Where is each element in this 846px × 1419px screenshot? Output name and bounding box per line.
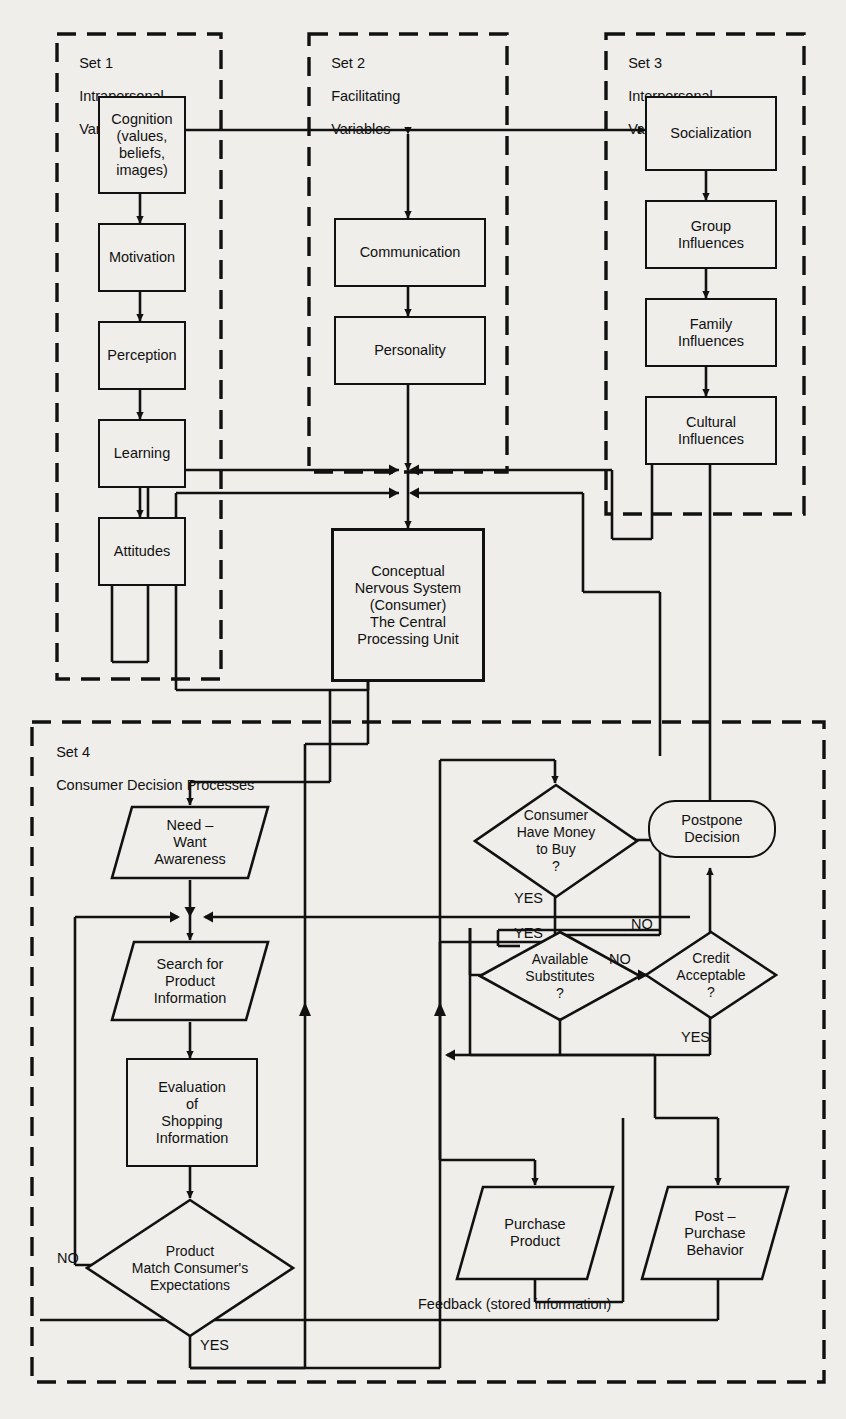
set-1-name-line2: Variables <box>79 121 138 137</box>
set-3-label: Set 3 Interpersonal Variables <box>612 38 713 154</box>
edge-label-credit-yes: YES <box>681 1029 710 1045</box>
edge-label-match-yes: YES <box>200 1337 229 1353</box>
diagram-canvas: Set 1 Intrapersonal Variables Set 2 Faci… <box>0 0 846 1419</box>
set-2-name-line1: Facilitating <box>331 88 400 104</box>
shape-available-substitutes[interactable]: AvailableSubstitutes? <box>478 930 642 1022</box>
shape-need-want-awareness[interactable]: Need –WantAwareness <box>110 805 270 880</box>
set-1-label: Set 1 Intrapersonal Variables <box>63 38 164 154</box>
edge-label-match-no: NO <box>57 1250 79 1266</box>
set-3-name-line2: Variables <box>628 121 687 137</box>
set-1-number: Set 1 <box>79 55 113 71</box>
edge-label-money-yes: YES <box>514 890 543 906</box>
shape-post-purchase-behavior[interactable]: Post –PurchaseBehavior <box>640 1185 790 1281</box>
shape-consumer-have-money[interactable]: ConsumerHave Moneyto Buy? <box>473 783 639 899</box>
shape-credit-acceptable[interactable]: CreditAcceptable? <box>644 930 778 1020</box>
shape-search-for-product-information[interactable]: Search forProductInformation <box>110 940 270 1022</box>
set-1-name-line1: Intrapersonal <box>79 88 164 104</box>
edge-label-money-no: NO <box>631 916 653 932</box>
set-4-number: Set 4 <box>56 744 90 760</box>
shape-product-match-expectations[interactable]: ProductMatch Consumer'sExpectations <box>85 1198 295 1338</box>
set-2-name-line2: Variables <box>331 121 390 137</box>
edge-label-substitutes-yes: YES <box>514 925 543 941</box>
edge-label-credit-no: NO <box>609 951 631 967</box>
set-4-label: Set 4 Consumer Decision Processes <box>40 727 254 810</box>
feedback-label: Feedback (stored information) <box>418 1296 611 1312</box>
shape-purchase-product[interactable]: PurchaseProduct <box>455 1185 615 1281</box>
set-2-label: Set 2 Facilitating Variables <box>315 38 400 154</box>
set-3-number: Set 3 <box>628 55 662 71</box>
set-2-number: Set 2 <box>331 55 365 71</box>
set-3-name-line1: Interpersonal <box>628 88 713 104</box>
set-4-name-line1: Consumer Decision Processes <box>56 777 254 793</box>
